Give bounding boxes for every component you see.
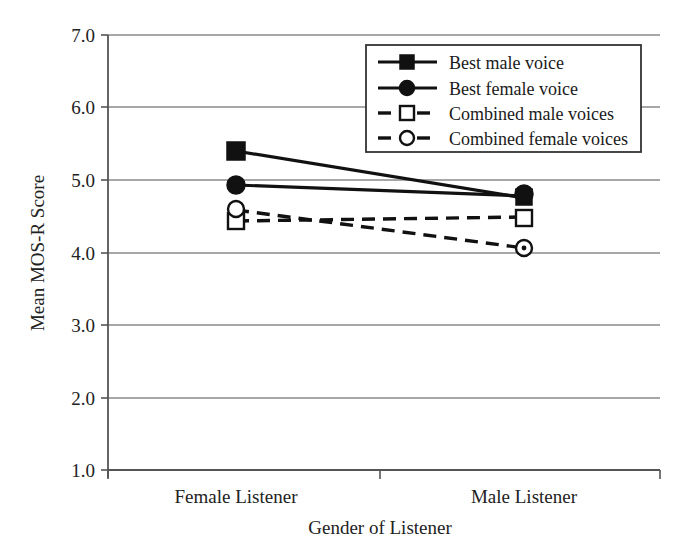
legend-label-best-female-voice: Best female voice xyxy=(449,79,578,99)
datapoint-combined-female-voices-female-listener xyxy=(228,201,244,217)
y-tick-label-4: 4.0 xyxy=(71,243,95,264)
y-tick-label-6: 6.0 xyxy=(71,97,95,118)
y-axis xyxy=(101,35,108,478)
y-tick-label-7: 7.0 xyxy=(71,25,95,46)
legend: Best male voice Best female voice Combin… xyxy=(366,45,641,152)
datapoint-best-female-voice-male-listener xyxy=(515,185,533,203)
open-square-icon xyxy=(400,106,414,120)
series-line-combined-male-voices xyxy=(236,217,524,221)
y-tick-label-5: 5.0 xyxy=(71,170,95,191)
y-tick-label-1: 1.0 xyxy=(71,460,95,481)
y-tick-label-2: 2.0 xyxy=(71,388,95,409)
datapoint-combined-female-voices-male-listener-core xyxy=(522,246,527,251)
legend-item-best-female-voice[interactable]: Best female voice xyxy=(378,79,578,99)
filled-circle-icon xyxy=(400,81,415,96)
legend-item-combined-male-voices[interactable]: Combined male voices xyxy=(378,104,614,124)
legend-label-best-male-voice: Best male voice xyxy=(449,53,564,73)
series-lines xyxy=(236,151,524,248)
y-axis-title: Mean MOS-R Score xyxy=(27,175,48,331)
datapoint-best-female-voice-female-listener xyxy=(227,176,245,194)
chart-figure: 7.0 6.0 5.0 4.0 3.0 2.0 1.0 Mean MOS-R S… xyxy=(0,0,693,554)
x-category-label-female: Female Listener xyxy=(175,486,299,507)
y-tick-label-3: 3.0 xyxy=(71,315,95,336)
legend-label-combined-female-voices: Combined female voices xyxy=(449,129,628,149)
y-tick-labels: 7.0 6.0 5.0 4.0 3.0 2.0 1.0 xyxy=(71,25,95,481)
x-axis xyxy=(108,470,660,479)
x-category-label-male: Male Listener xyxy=(471,486,578,507)
open-circle-icon xyxy=(400,131,414,145)
legend-label-combined-male-voices: Combined male voices xyxy=(449,104,614,124)
series-markers xyxy=(227,142,533,256)
series-line-combined-female-voices xyxy=(236,210,524,248)
x-axis-title: Gender of Listener xyxy=(308,517,452,538)
datapoint-combined-male-voices-male-listener xyxy=(516,210,532,226)
datapoint-best-male-voice-female-listener xyxy=(227,142,245,160)
line-chart-canvas: 7.0 6.0 5.0 4.0 3.0 2.0 1.0 Mean MOS-R S… xyxy=(0,0,693,554)
filled-square-icon xyxy=(400,55,414,69)
